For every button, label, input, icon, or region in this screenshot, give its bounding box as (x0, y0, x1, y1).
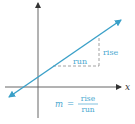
x-axis-label: x (125, 82, 130, 92)
rise-label: rise (103, 48, 118, 57)
run-label: run (73, 57, 87, 66)
formula-numerator: rise (81, 94, 96, 103)
formula-equals: = (67, 99, 74, 109)
formula-m: m (55, 99, 63, 109)
slope-formula: m = rise run (55, 94, 98, 114)
formula-denominator: run (81, 105, 94, 114)
sloped-line (9, 20, 121, 97)
slope-diagram: x rise run m = rise run (0, 0, 135, 124)
